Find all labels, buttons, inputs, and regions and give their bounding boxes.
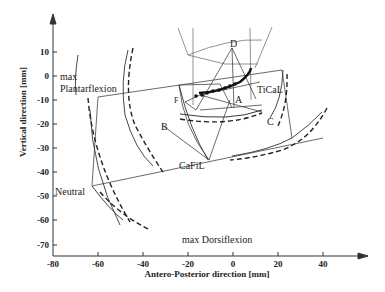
label-dorsiflexion: max Dorsiflexion bbox=[182, 234, 252, 245]
x-arrow-icon bbox=[358, 253, 368, 259]
label-neutral: Neutral bbox=[55, 186, 85, 197]
y-tick: -70 bbox=[37, 240, 49, 250]
x-tick: -40 bbox=[137, 259, 149, 269]
y-axis-label: Vertical direction [mm] bbox=[18, 67, 28, 157]
label-plantarflexion: Plantarflexion bbox=[60, 83, 117, 94]
x-tick: 0 bbox=[231, 259, 236, 269]
label-C: C bbox=[267, 116, 274, 127]
annotations: max Plantarflexion Neutral max Dorsiflex… bbox=[55, 38, 283, 245]
solid-arcs bbox=[75, 50, 322, 225]
y-tick: -60 bbox=[37, 215, 49, 225]
linkage-lines bbox=[92, 27, 323, 186]
y-tick: -20 bbox=[37, 119, 49, 129]
y-arrow-icon bbox=[50, 14, 56, 24]
y-tick-labels: 10 0 -10 -20 -30 -40 -50 -60 -70 bbox=[37, 47, 50, 250]
x-tick: 40 bbox=[319, 259, 329, 269]
y-tick: 10 bbox=[40, 47, 50, 57]
x-tick-labels: -80 -60 -40 -20 0 20 40 bbox=[47, 259, 328, 269]
y-tick: -40 bbox=[37, 167, 49, 177]
x-axis-label: Antero-Posterior direction [mm] bbox=[145, 269, 270, 279]
label-max: max bbox=[60, 71, 77, 82]
label-A: A bbox=[235, 94, 243, 105]
x-tick: -20 bbox=[182, 259, 194, 269]
x-tick: 20 bbox=[274, 259, 284, 269]
diagram: 10 0 -10 -20 -30 -40 -50 -60 -70 -80 -60… bbox=[0, 0, 385, 292]
x-tick: -80 bbox=[47, 259, 59, 269]
y-tick: -50 bbox=[37, 191, 49, 201]
label-D: D bbox=[230, 38, 237, 49]
label-F: F bbox=[174, 96, 179, 105]
label-ticaL: TiCaL bbox=[257, 84, 283, 95]
label-cafiL: CaFiL bbox=[179, 160, 205, 171]
y-tick: -10 bbox=[37, 95, 49, 105]
axes bbox=[50, 14, 368, 259]
x-tick: -60 bbox=[92, 259, 104, 269]
y-tick: 0 bbox=[45, 71, 50, 81]
label-B: B bbox=[161, 121, 168, 132]
y-tick: -30 bbox=[37, 143, 49, 153]
